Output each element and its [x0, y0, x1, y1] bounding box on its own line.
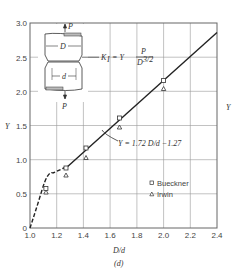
svg-text:0.5: 0.5 — [16, 190, 28, 199]
svg-text:D: D — [59, 42, 66, 51]
specimen-diagram — [38, 24, 88, 102]
svg-text:3.0: 3.0 — [16, 19, 28, 28]
stress-intensity-chart: 0 0.5 1.0 1.5 2.0 2.5 3.0 1.0 1.2 1.4 1.… — [0, 0, 236, 272]
fit-curve-dashed — [30, 167, 66, 228]
svg-text:1.2: 1.2 — [51, 231, 63, 240]
svg-text:2.2: 2.2 — [185, 231, 197, 240]
svg-text:P: P — [67, 22, 73, 31]
legend: Bueckner Irwin — [150, 179, 189, 199]
svg-text:1.6: 1.6 — [105, 231, 117, 240]
svg-text:2.0: 2.0 — [158, 231, 170, 240]
svg-text:1.0: 1.0 — [24, 231, 36, 240]
svg-text:1.4: 1.4 — [78, 231, 90, 240]
svg-text:1.5: 1.5 — [16, 122, 28, 131]
svg-text:I: I — [106, 55, 110, 64]
y-axis-label: Y — [5, 122, 11, 131]
svg-text:2.0: 2.0 — [16, 88, 28, 97]
svg-text:= Y: = Y — [112, 53, 125, 62]
x-axis-label: D/d — [112, 246, 126, 255]
y-axis-ticks: 0 0.5 1.0 1.5 2.0 2.5 3.0 — [16, 19, 28, 233]
svg-text:1.0: 1.0 — [16, 156, 28, 165]
svg-text:D: D — [136, 58, 143, 67]
figure-caption: (d) — [114, 259, 124, 268]
svg-text:Irwin: Irwin — [157, 190, 173, 199]
right-axis-label: Y — [226, 103, 232, 112]
x-axis-ticks: 1.0 1.2 1.4 1.6 1.8 2.0 2.2 2.4 — [24, 231, 223, 240]
svg-text:2.5: 2.5 — [16, 54, 28, 63]
svg-text:K: K — [100, 53, 107, 62]
svg-text:2.4: 2.4 — [211, 231, 223, 240]
svg-text:P: P — [61, 102, 67, 111]
svg-text:3/2: 3/2 — [142, 55, 153, 64]
svg-text:Bueckner: Bueckner — [157, 179, 189, 188]
equation-label: Y = 1.72 D/d −1.27 — [118, 139, 182, 148]
svg-text:1.8: 1.8 — [131, 231, 143, 240]
